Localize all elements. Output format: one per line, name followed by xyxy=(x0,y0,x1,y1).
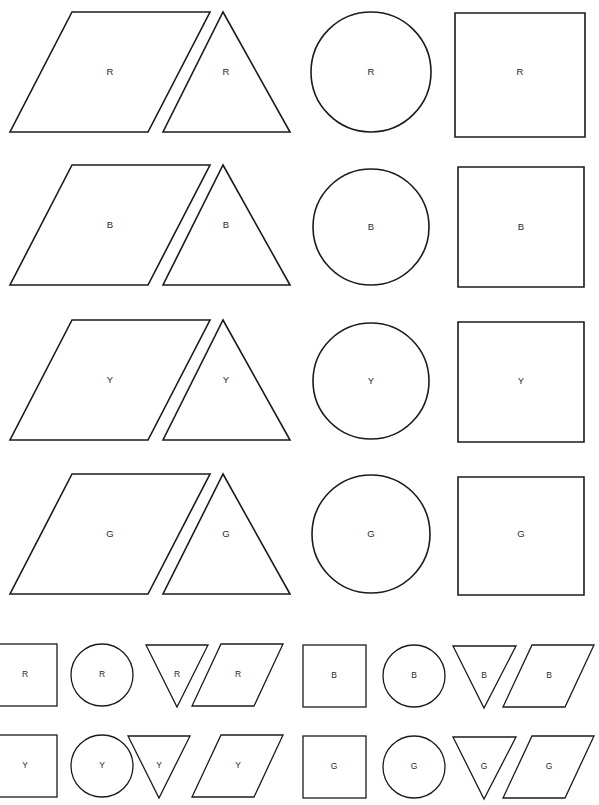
shape-label: B xyxy=(518,221,524,232)
shape-circle[interactable]: B xyxy=(313,169,429,285)
shape-label: B xyxy=(107,219,113,230)
shape-circle[interactable]: Y xyxy=(71,735,133,797)
large-row-3: Y Y Y Y xyxy=(10,320,584,442)
shape-label: G xyxy=(367,528,374,539)
shape-label: R xyxy=(107,66,114,77)
large-row-1: R R R R xyxy=(10,12,585,137)
shape-circle[interactable]: G xyxy=(312,475,430,593)
shape-label: G xyxy=(517,528,524,539)
shape-circle[interactable]: R xyxy=(311,12,431,132)
shape-label: R xyxy=(174,669,180,679)
shape-parallelogram[interactable]: Y xyxy=(192,735,283,797)
shape-square[interactable]: R xyxy=(455,13,585,137)
worksheet-page: R R R R B B xyxy=(0,0,599,805)
shape-parallelogram[interactable]: R xyxy=(192,644,283,706)
shape-label: Y xyxy=(99,760,105,770)
shape-circle[interactable]: Y xyxy=(313,323,429,439)
shape-circle[interactable]: G xyxy=(383,736,445,798)
shape-label: Y xyxy=(235,760,241,770)
shape-square[interactable]: G xyxy=(458,477,584,595)
shape-square[interactable]: G xyxy=(303,736,366,798)
shape-square[interactable]: B xyxy=(458,167,584,287)
shape-label: Y xyxy=(223,374,230,385)
shape-triangle-down[interactable]: Y xyxy=(128,736,190,798)
small-row-2-group-y: Y Y Y Y xyxy=(0,735,283,798)
shape-label: G xyxy=(222,528,229,539)
shape-label: G xyxy=(331,761,338,771)
shape-label: G xyxy=(106,528,113,539)
shape-circle[interactable]: B xyxy=(383,645,445,707)
shape-label: Y xyxy=(518,375,525,386)
shape-label: R xyxy=(99,669,105,679)
shape-square[interactable]: Y xyxy=(0,735,57,797)
shape-parallelogram[interactable]: B xyxy=(503,645,594,707)
shape-label: R xyxy=(223,66,230,77)
shape-square[interactable]: B xyxy=(303,645,366,707)
large-row-4: G G G G xyxy=(10,474,584,595)
shape-label: B xyxy=(546,670,552,680)
shape-label: B xyxy=(223,219,229,230)
small-row-1-group-b: B B B B xyxy=(303,645,594,708)
shape-label: Y xyxy=(156,760,162,770)
shape-parallelogram[interactable]: G xyxy=(503,736,594,798)
shape-circle[interactable]: R xyxy=(71,644,133,706)
shape-label: R xyxy=(235,669,241,679)
shape-label: G xyxy=(546,761,553,771)
shape-label: B xyxy=(368,221,374,232)
shape-label: R xyxy=(22,669,28,679)
small-row-1-group-r: R R R R xyxy=(0,644,283,707)
large-row-2: B B B B xyxy=(10,165,584,287)
small-row-2-group-g: G G G G xyxy=(303,736,594,799)
shape-square[interactable]: R xyxy=(0,644,57,706)
attribute-blocks-figure: R R R R B B xyxy=(0,0,599,805)
shape-square[interactable]: Y xyxy=(458,322,584,442)
shape-label: B xyxy=(331,670,337,680)
shape-label: R xyxy=(517,66,524,77)
shape-label: R xyxy=(368,66,375,77)
shape-label: Y xyxy=(107,374,114,385)
shape-label: G xyxy=(411,761,418,771)
shape-label: B xyxy=(411,670,417,680)
shape-label: B xyxy=(481,670,487,680)
shape-label: G xyxy=(481,761,488,771)
shape-label: Y xyxy=(22,760,28,770)
shape-label: Y xyxy=(368,375,375,386)
